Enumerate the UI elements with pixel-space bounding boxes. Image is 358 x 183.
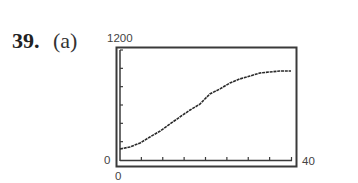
x-axis-ticks [141,157,269,160]
function-curve [120,71,291,149]
axes [120,50,292,161]
calculator-graph [0,0,358,183]
graph-frame [117,48,297,167]
